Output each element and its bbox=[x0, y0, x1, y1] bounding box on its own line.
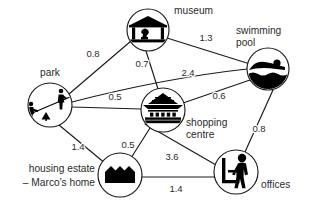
edge-weight-pool-offices: 0.8 bbox=[252, 123, 265, 134]
edge-weight-shopping-housing: 0.5 bbox=[121, 139, 134, 150]
shopping-centre-label-line1: shopping bbox=[186, 117, 228, 128]
museum-label: museum bbox=[174, 5, 213, 16]
edge-weight-housing-offices: 1.4 bbox=[169, 183, 182, 194]
node-park[interactable]: park bbox=[28, 67, 72, 127]
node-housing-estate[interactable]: housing estate – Marco's home bbox=[23, 153, 142, 197]
edge-weight-park-shopping: 0.5 bbox=[108, 91, 121, 102]
edge-pool-offices bbox=[245, 90, 273, 152]
shopping-centre-label-line2: centre bbox=[186, 129, 215, 140]
offices-label: offices bbox=[261, 179, 290, 190]
node-swimming-pool[interactable]: swimming pool bbox=[236, 25, 289, 90]
edge-weight-shopping-pool: 0.6 bbox=[212, 90, 225, 101]
edge-weight-park-pool: 2.4 bbox=[181, 67, 194, 78]
edge-park-museum bbox=[69, 41, 131, 94]
three-houses-icon bbox=[105, 166, 135, 183]
edge-weight-park-museum: 0.8 bbox=[86, 48, 99, 59]
edge-weight-shopping-offices: 3.6 bbox=[165, 151, 178, 162]
edge-weight-park-housing: 1.4 bbox=[71, 141, 84, 152]
network-diagram: museum swimming pool bbox=[0, 0, 322, 205]
edge-weight-museum-shopping: 0.7 bbox=[135, 58, 148, 69]
edge-park-shopping bbox=[72, 107, 141, 109]
housing-estate-label-line2: – Marco's home bbox=[23, 177, 95, 188]
edge-weight-museum-pool: 1.3 bbox=[199, 32, 212, 43]
graph-canvas: museum swimming pool bbox=[0, 0, 322, 205]
node-offices[interactable]: offices bbox=[214, 150, 290, 194]
node-museum[interactable]: museum bbox=[127, 5, 213, 51]
park-label: park bbox=[40, 67, 61, 78]
swimming-pool-label-line1: swimming bbox=[236, 25, 282, 36]
swimming-pool-label-line2: pool bbox=[236, 37, 255, 48]
housing-estate-label-line1: housing estate bbox=[29, 163, 96, 174]
